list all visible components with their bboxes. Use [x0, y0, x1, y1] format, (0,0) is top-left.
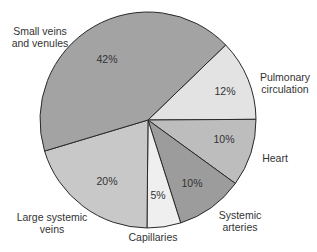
pct-large-veins: 20% — [96, 175, 117, 187]
pct-small-veins: 42% — [96, 53, 117, 65]
pct-heart: 10% — [213, 133, 234, 145]
label-large-veins: Large systemic veins — [14, 211, 90, 235]
label-pulmonary: Pulmonary circulation — [255, 71, 315, 95]
label-small-veins: Small veins and venules — [10, 25, 70, 49]
label-capillaries: Capillaries — [118, 231, 188, 243]
pct-capillaries: 5% — [150, 189, 165, 201]
label-heart: Heart — [255, 152, 295, 164]
label-systemic-arteries: Systemic arteries — [210, 209, 270, 233]
pct-systemic-arteries: 10% — [181, 177, 202, 189]
pct-pulmonary: 12% — [214, 85, 235, 97]
